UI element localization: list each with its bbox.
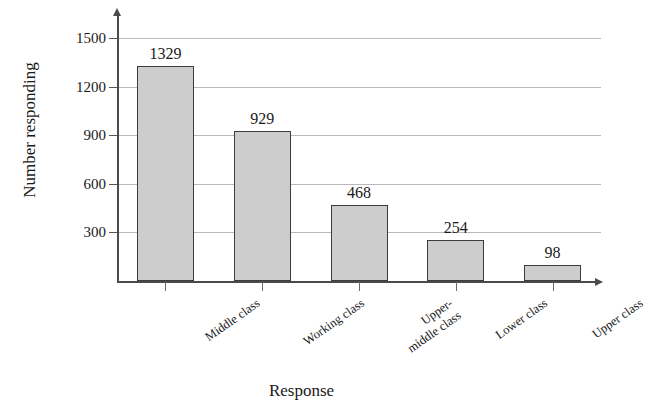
gridline — [117, 38, 601, 39]
y-axis-tick-label: 300 — [58, 225, 106, 240]
bar — [524, 265, 581, 281]
plot-area: 132992946825498 — [117, 14, 601, 281]
bar — [331, 205, 388, 281]
bar-value-label: 254 — [416, 220, 496, 236]
y-axis-tick-label: 600 — [58, 177, 106, 192]
bar-value-label: 1329 — [125, 46, 205, 62]
x-axis-category-label: Upper-middle class — [396, 296, 464, 356]
y-axis-tick-label: 900 — [58, 128, 106, 143]
x-axis-category-label-line: Lower class — [493, 296, 551, 343]
y-axis-tick-label: 1200 — [58, 80, 106, 95]
bar-value-label: 98 — [513, 245, 593, 261]
x-axis-category-label: Middle class — [203, 296, 264, 345]
y-axis-line — [117, 14, 119, 282]
x-axis-category-label-line: Middle class — [203, 296, 264, 345]
x-axis-arrow-icon — [595, 278, 603, 286]
x-axis-tick-mark — [262, 282, 263, 291]
y-axis-arrow-icon — [113, 8, 121, 16]
bar-value-label: 468 — [319, 185, 399, 201]
bar-value-label: 929 — [222, 111, 302, 127]
x-axis-category-label-line: Upper class — [589, 296, 646, 342]
bar — [234, 131, 291, 281]
bar — [427, 240, 484, 281]
x-axis-category-label-line: Working class — [301, 296, 368, 349]
x-axis-category-label: Upper class — [589, 296, 646, 342]
y-axis-tick-labels: 30060090012001500 — [58, 14, 106, 281]
chart-title — [0, 0, 603, 3]
x-axis-tick-mark — [165, 282, 166, 291]
x-axis-title: Response — [0, 381, 603, 401]
x-axis-category-label: Working class — [301, 296, 368, 349]
x-axis-tick-mark — [553, 282, 554, 291]
y-axis-title: Number responding — [20, 10, 40, 250]
x-axis-tick-mark — [359, 282, 360, 291]
bar — [137, 66, 194, 281]
x-axis-category-label: Lower class — [493, 296, 551, 343]
y-axis-tick-label: 1500 — [58, 31, 106, 46]
x-axis-tick-mark — [456, 282, 457, 291]
